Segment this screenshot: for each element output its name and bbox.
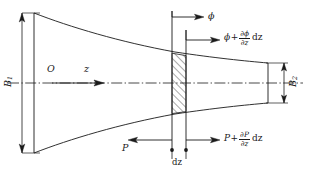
flux-outflow-label: ϕ+ ∂ϕ ∂z dz	[224, 30, 263, 46]
flux-fraction-numerator: ∂ϕ	[239, 30, 250, 38]
flux-fraction-denominator: ∂z	[239, 38, 250, 47]
pressure-partial-fraction: ∂P ∂z	[239, 131, 250, 147]
pressure-fraction-denominator: ∂z	[239, 139, 250, 148]
flux-partial-fraction: ∂ϕ ∂z	[239, 30, 250, 46]
pressure-differential: dz	[252, 133, 263, 143]
pressure-fraction-numerator: ∂P	[239, 131, 250, 139]
origin-label: O	[47, 64, 55, 74]
flux-inflow-label: ϕ	[208, 11, 214, 21]
horn-diagram-figure: B1 B2 O z ϕ ϕ+ ∂ϕ ∂z dz P P+ ∂P ∂z dz dz	[0, 0, 309, 170]
mouth-dimension-label: B1	[3, 76, 14, 87]
throat-dimension-label: B2	[288, 76, 299, 87]
axis-label: z	[84, 64, 89, 74]
flux-differential: dz	[252, 32, 263, 42]
pressure-inflow-label: P	[122, 143, 128, 153]
slice-thickness-label: dz	[172, 158, 182, 167]
diagram-canvas	[0, 0, 309, 170]
pressure-outflow-label: P+ ∂P ∂z dz	[224, 131, 262, 147]
